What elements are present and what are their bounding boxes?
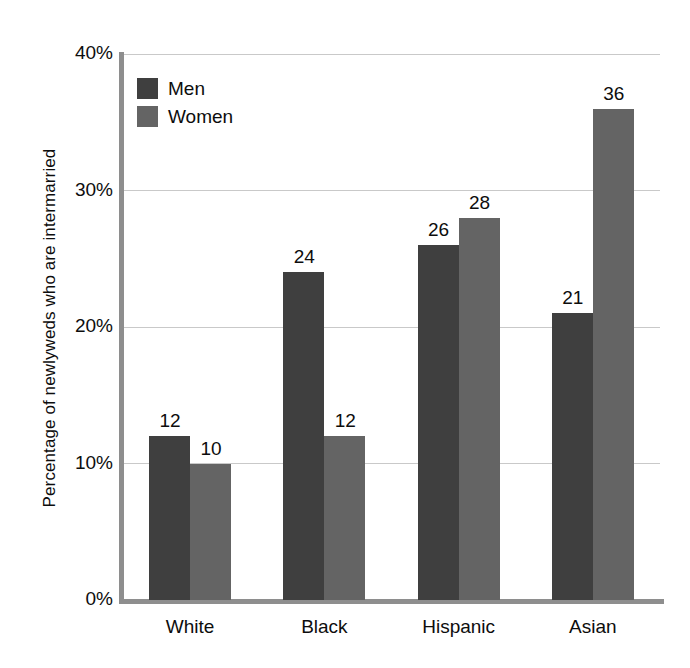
bar-value-asian-men: 21 [551, 287, 595, 309]
y-tick-label-40: 40% [0, 42, 113, 64]
bar-black-men[interactable] [283, 272, 324, 600]
legend-label-men: Men [168, 79, 205, 98]
x-tick-label-hispanic: Hispanic [389, 616, 529, 638]
x-tick-label-black: Black [254, 616, 394, 638]
legend-item-men[interactable]: Men [137, 76, 233, 101]
legend-label-women: Women [168, 107, 233, 126]
y-tick-label-20: 20% [0, 315, 113, 337]
bar-asian-men[interactable] [552, 313, 593, 600]
bar-asian-women[interactable] [593, 109, 634, 600]
bars-layer [123, 54, 660, 600]
bar-white-women[interactable] [190, 464, 231, 601]
bar-value-hispanic-women: 28 [458, 192, 502, 214]
bar-hispanic-women[interactable] [459, 218, 500, 600]
bar-value-white-women: 10 [189, 438, 233, 460]
x-tick-label-asian: Asian [523, 616, 663, 638]
legend: Men Women [137, 76, 233, 132]
y-tick-label-10: 10% [0, 452, 113, 474]
bar-value-black-men: 24 [282, 246, 326, 268]
bar-chart: Percentage of newlyweds who are intermar… [0, 0, 690, 668]
legend-item-women[interactable]: Women [137, 104, 233, 129]
bar-white-men[interactable] [149, 436, 190, 600]
bar-black-women[interactable] [324, 436, 365, 600]
y-tick-label-30: 30% [0, 179, 113, 201]
bar-value-black-women: 12 [323, 410, 367, 432]
bar-hispanic-men[interactable] [418, 245, 459, 600]
x-tick-label-white: White [120, 616, 260, 638]
women-swatch-icon [137, 106, 158, 127]
bar-value-asian-women: 36 [592, 83, 636, 105]
men-swatch-icon [137, 78, 158, 99]
bar-value-hispanic-men: 26 [417, 219, 461, 241]
y-tick-label-0: 0% [0, 588, 113, 610]
bar-value-white-men: 12 [148, 410, 192, 432]
